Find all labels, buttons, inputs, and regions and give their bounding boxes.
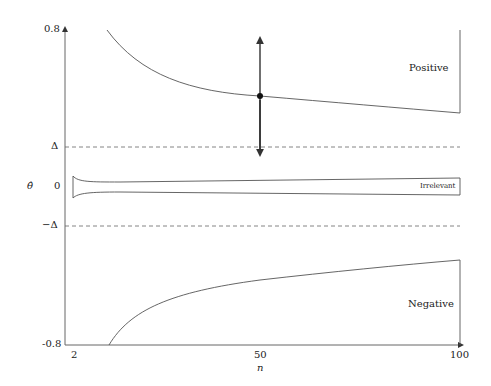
x-tick-100: 100 (450, 349, 469, 360)
negative-label: Negative (408, 298, 454, 309)
positive-boundary (107, 30, 460, 113)
chart-canvas (0, 0, 491, 386)
positive-label: Positive (409, 62, 448, 73)
y-tick-neg-delta: −Δ (42, 219, 58, 230)
irrelevant-band (73, 176, 460, 198)
y-tick-zero: 0 (54, 180, 60, 191)
x-axis-label: n (257, 362, 263, 373)
x-tick-2: 2 (71, 349, 77, 360)
x-tick-50: 50 (254, 349, 267, 360)
y-tick-delta: Δ (51, 140, 58, 151)
y-axis-label: θ̂ (27, 180, 33, 191)
point-estimate (257, 93, 263, 99)
y-tick-bottom: -0.8 (42, 338, 61, 349)
y-tick-top: 0.8 (44, 23, 60, 34)
irrelevant-label: Irrelevant (420, 182, 455, 190)
